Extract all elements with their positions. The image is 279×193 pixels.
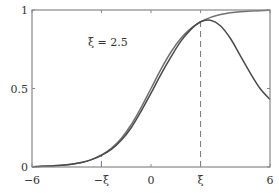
ticks: −6−ξ0ξ600.51 [11,4,274,187]
chart: −6−ξ0ξ600.51 ξ = 2.5 [0,0,279,193]
y-tick-label: 1 [21,4,28,17]
y-tick-label: 0.5 [11,83,29,96]
x-tick-label: ξ [198,174,204,187]
xi-annotation: ξ = 2.5 [88,36,128,49]
x-tick-label: −ξ [94,174,109,187]
plot-area [32,10,270,167]
x-tick-label: 6 [267,174,274,187]
y-tick-label: 0 [21,161,28,174]
x-tick-label: 0 [148,174,155,187]
x-tick-label: −6 [24,174,40,187]
series-line-bump [32,20,270,167]
series-line-sigmoid [32,10,270,166]
